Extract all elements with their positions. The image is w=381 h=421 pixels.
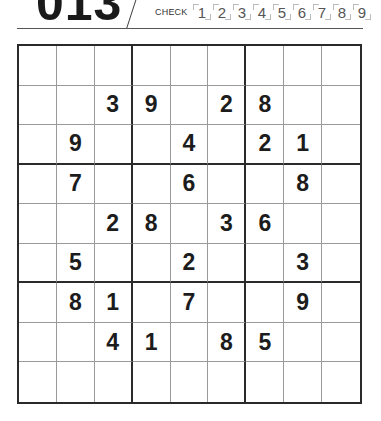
empty-cell[interactable] — [95, 165, 133, 205]
empty-cell[interactable] — [95, 244, 133, 284]
empty-cell[interactable] — [133, 125, 171, 165]
given-cell: 3 — [284, 244, 322, 284]
empty-cell[interactable] — [171, 362, 209, 402]
given-cell: 8 — [133, 204, 171, 244]
check-boxes: 123456789 — [192, 2, 372, 22]
empty-cell[interactable] — [133, 165, 171, 205]
empty-cell[interactable] — [133, 362, 171, 402]
empty-cell[interactable] — [133, 244, 171, 284]
given-cell: 2 — [246, 125, 284, 165]
empty-cell[interactable] — [19, 86, 57, 126]
given-cell: 9 — [133, 86, 171, 126]
empty-cell[interactable] — [284, 323, 322, 363]
given-cell: 7 — [57, 165, 95, 205]
empty-cell[interactable] — [284, 362, 322, 402]
empty-cell[interactable] — [284, 86, 322, 126]
given-cell: 3 — [208, 204, 246, 244]
empty-cell[interactable] — [171, 323, 209, 363]
empty-cell[interactable] — [208, 125, 246, 165]
given-cell: 1 — [95, 283, 133, 323]
empty-cell[interactable] — [246, 244, 284, 284]
empty-cell[interactable] — [322, 86, 360, 126]
empty-cell[interactable] — [208, 46, 246, 86]
given-cell: 1 — [133, 323, 171, 363]
check-box-3[interactable]: 3 — [232, 2, 252, 22]
empty-cell[interactable] — [133, 46, 171, 86]
check-label: CHECK — [155, 7, 188, 17]
given-cell: 2 — [208, 86, 246, 126]
given-cell: 8 — [57, 283, 95, 323]
given-cell: 8 — [284, 165, 322, 205]
check-box-1[interactable]: 1 — [192, 2, 212, 22]
check-box-5[interactable]: 5 — [272, 2, 292, 22]
given-cell: 4 — [95, 323, 133, 363]
empty-cell[interactable] — [322, 244, 360, 284]
empty-cell[interactable] — [246, 46, 284, 86]
header-slash-divider — [126, 0, 137, 29]
given-cell: 4 — [171, 125, 209, 165]
check-box-7[interactable]: 7 — [312, 2, 332, 22]
puzzle-number: 013 — [36, 0, 122, 28]
empty-cell[interactable] — [208, 165, 246, 205]
given-cell: 2 — [171, 244, 209, 284]
empty-cell[interactable] — [19, 323, 57, 363]
empty-cell[interactable] — [322, 125, 360, 165]
empty-cell[interactable] — [171, 86, 209, 126]
empty-cell[interactable] — [19, 283, 57, 323]
given-cell: 6 — [171, 165, 209, 205]
empty-cell[interactable] — [19, 125, 57, 165]
empty-cell[interactable] — [57, 86, 95, 126]
check-box-2[interactable]: 2 — [212, 2, 232, 22]
empty-cell[interactable] — [322, 323, 360, 363]
empty-cell[interactable] — [95, 125, 133, 165]
empty-cell[interactable] — [19, 362, 57, 402]
empty-cell[interactable] — [19, 46, 57, 86]
empty-cell[interactable] — [19, 165, 57, 205]
given-cell: 2 — [95, 204, 133, 244]
empty-cell[interactable] — [246, 362, 284, 402]
empty-cell[interactable] — [133, 283, 171, 323]
empty-cell[interactable] — [95, 46, 133, 86]
given-cell: 1 — [284, 125, 322, 165]
given-cell: 8 — [208, 323, 246, 363]
empty-cell[interactable] — [208, 362, 246, 402]
given-cell: 3 — [95, 86, 133, 126]
empty-cell[interactable] — [57, 204, 95, 244]
empty-cell[interactable] — [19, 244, 57, 284]
empty-cell[interactable] — [246, 165, 284, 205]
given-cell: 7 — [171, 283, 209, 323]
check-box-6[interactable]: 6 — [292, 2, 312, 22]
empty-cell[interactable] — [322, 204, 360, 244]
empty-cell[interactable] — [57, 46, 95, 86]
empty-cell[interactable] — [322, 46, 360, 86]
given-cell: 9 — [57, 125, 95, 165]
empty-cell[interactable] — [208, 283, 246, 323]
empty-cell[interactable] — [322, 283, 360, 323]
empty-cell[interactable] — [171, 46, 209, 86]
empty-cell[interactable] — [57, 362, 95, 402]
header-rule — [17, 28, 363, 29]
check-box-4[interactable]: 4 — [252, 2, 272, 22]
given-cell: 6 — [246, 204, 284, 244]
empty-cell[interactable] — [284, 46, 322, 86]
sudoku-grid: 39289421768283652381794185 — [17, 44, 362, 404]
given-cell: 5 — [57, 244, 95, 284]
empty-cell[interactable] — [19, 204, 57, 244]
empty-cell[interactable] — [57, 323, 95, 363]
given-cell: 8 — [246, 86, 284, 126]
given-cell: 5 — [246, 323, 284, 363]
empty-cell[interactable] — [208, 244, 246, 284]
empty-cell[interactable] — [322, 362, 360, 402]
check-box-9[interactable]: 9 — [352, 2, 372, 22]
empty-cell[interactable] — [284, 204, 322, 244]
empty-cell[interactable] — [246, 283, 284, 323]
empty-cell[interactable] — [95, 362, 133, 402]
check-box-8[interactable]: 8 — [332, 2, 352, 22]
given-cell: 9 — [284, 283, 322, 323]
empty-cell[interactable] — [171, 204, 209, 244]
empty-cell[interactable] — [322, 165, 360, 205]
